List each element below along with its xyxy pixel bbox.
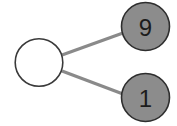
connector-line-top xyxy=(62,33,123,55)
number-bond-diagram: 9 1 xyxy=(0,0,177,126)
part-value-top: 9 xyxy=(139,14,152,41)
whole-node[interactable] xyxy=(15,39,63,87)
whole-circle[interactable] xyxy=(15,39,63,87)
part-value-bottom: 1 xyxy=(139,85,152,112)
part-node-top: 9 xyxy=(122,3,170,51)
part-node-bottom: 1 xyxy=(122,74,170,122)
connector-line-bottom xyxy=(62,71,123,94)
